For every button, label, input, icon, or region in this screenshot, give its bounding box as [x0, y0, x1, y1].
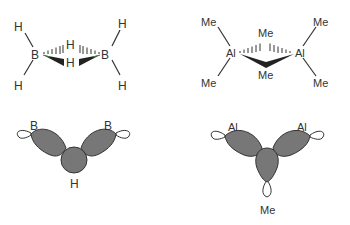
- atom-h-bridge-bottom: H: [66, 56, 75, 70]
- atom-al-left: Al: [226, 47, 236, 59]
- label-b-right: B: [104, 119, 112, 133]
- atom-me-top-left: Me: [201, 16, 216, 28]
- atom-h-bridge-top: H: [66, 38, 75, 52]
- atom-me-bridge-top: Me: [258, 27, 273, 39]
- atom-me-top-right: Me: [313, 16, 328, 28]
- label-h-center: H: [70, 177, 79, 191]
- atom-b-left: B: [31, 48, 39, 62]
- atom-h-top-left: H: [14, 20, 23, 34]
- label-me-center: Me: [260, 204, 275, 216]
- trimethylaluminium-dimer-structure: Me Me Me Me Al Al Me Me: [201, 16, 328, 89]
- atom-me-bridge-bottom: Me: [258, 69, 273, 81]
- diagram-canvas: H H H H B B H H Me: [0, 0, 350, 225]
- atom-b-right: B: [101, 48, 109, 62]
- atom-h-bottom-left: H: [14, 79, 23, 93]
- aluminium-methyl-orbital-overlap: Al Al Me: [211, 121, 324, 216]
- label-al-right: Al: [297, 121, 307, 133]
- atom-me-bottom-right: Me: [313, 77, 328, 89]
- atom-al-right: Al: [295, 47, 305, 59]
- label-al-left: Al: [228, 121, 238, 133]
- diborane-structure: H H H H B B H H: [14, 17, 127, 93]
- diborane-orbital-overlap: B B H: [17, 119, 129, 191]
- atom-me-bottom-left: Me: [201, 77, 216, 89]
- label-b-left: B: [30, 119, 38, 133]
- atom-h-bottom-right: H: [118, 79, 127, 93]
- atom-h-top-right: H: [118, 17, 127, 31]
